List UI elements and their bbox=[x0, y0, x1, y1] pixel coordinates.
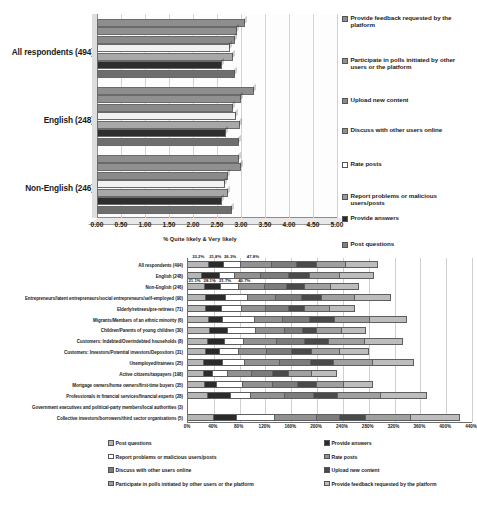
bottom-chart-bar-segment bbox=[310, 272, 341, 279]
bottom-chart-bar-segment bbox=[188, 381, 205, 388]
bottom-chart-bar-segment bbox=[206, 294, 226, 301]
bottom-chart-bar-segment bbox=[255, 316, 283, 323]
bottom-chart-category-label: Mortgage owners/home owners/first-time b… bbox=[72, 383, 183, 388]
bottom-chart-bar-segment bbox=[231, 392, 252, 399]
top-chart-legend-item: Report problems or malicious users/posts bbox=[342, 192, 472, 207]
bottom-chart-bar-segment bbox=[243, 381, 274, 388]
bottom-chart-bar-segment bbox=[205, 381, 217, 388]
bottom-chart-stacked-bar bbox=[188, 414, 460, 419]
bottom-chart-x-tick-label: 200% bbox=[310, 424, 322, 429]
bottom-chart-gridline bbox=[446, 258, 447, 422]
top-chart-bar bbox=[97, 129, 226, 137]
legend-swatch bbox=[342, 162, 348, 168]
bottom-chart-category-label: Elderly/retirees/pre-retirees (71) bbox=[117, 307, 183, 312]
top-chart-gridline bbox=[313, 14, 314, 218]
top-chart-bar bbox=[97, 19, 245, 27]
bottom-chart-bar-segment bbox=[277, 338, 305, 345]
bottom-chart-bar-segment bbox=[272, 261, 298, 268]
bottom-chart-bar-segment bbox=[188, 316, 209, 323]
bottom-chart-stacked-bar bbox=[188, 283, 359, 288]
legend-swatch bbox=[342, 98, 348, 104]
bottom-chart-bar-segment bbox=[312, 348, 340, 355]
bottom-chart-category-label: All respondents (494) bbox=[138, 263, 183, 268]
bottom-chart-legend-label: Post questions bbox=[116, 440, 152, 446]
legend-swatch bbox=[324, 467, 330, 473]
bottom-chart-legend-item: Provide feedback requested by the platfo… bbox=[324, 481, 436, 487]
bottom-chart-bar-segment bbox=[188, 283, 205, 290]
top-chart-bar bbox=[97, 87, 254, 95]
bottom-chart-legend-item: Upload new content bbox=[324, 467, 379, 473]
top-chart-legend: Provide feedback requested by the platfo… bbox=[342, 8, 474, 220]
bottom-chart-bar-segment bbox=[273, 381, 297, 388]
legend-swatch bbox=[108, 467, 114, 473]
bottom-chart-stacked-bar bbox=[188, 305, 355, 310]
bottom-chart-bar-segment bbox=[204, 359, 222, 366]
top-chart-bar bbox=[97, 172, 228, 180]
bottom-chart-bar-segment bbox=[241, 261, 272, 268]
bottom-chart-bar-segment bbox=[292, 348, 312, 355]
bottom-chart-bar-segment bbox=[329, 338, 366, 345]
bottom-chart-bar-segment bbox=[317, 261, 346, 268]
bottom-chart-bar-segment bbox=[222, 305, 242, 312]
bottom-chart-legend-item: Post questions bbox=[108, 440, 152, 446]
bottom-chart-stacked-bar bbox=[188, 272, 374, 277]
bottom-chart-stacked-bar bbox=[188, 338, 403, 343]
bottom-chart-category-label: Active citizens/taxpayers (198) bbox=[119, 372, 183, 377]
top-chart-x-axis-title: % Quite likely & Very likely bbox=[0, 236, 400, 242]
bottom-chart-bar-segment bbox=[245, 359, 281, 366]
bottom-chart-data-label: 26.3% bbox=[224, 254, 236, 259]
bottom-chart-bar-segment bbox=[226, 294, 248, 301]
bottom-chart-bar-segment bbox=[335, 316, 371, 323]
bottom-chart: All respondents (494)English (248)Non-En… bbox=[0, 248, 474, 513]
bottom-chart-legend-label: Report problems or malicious users/posts bbox=[116, 454, 217, 460]
bottom-chart-bar-segment bbox=[411, 414, 460, 421]
bottom-chart-bar-segment bbox=[209, 316, 224, 323]
top-chart-legend-item: Provide answers bbox=[342, 214, 472, 222]
bottom-chart-bar-segment bbox=[223, 359, 245, 366]
bottom-chart-bar-segment bbox=[305, 338, 328, 345]
bottom-chart-bar-segment bbox=[340, 348, 369, 355]
top-chart-x-tick-label: 1.50 bbox=[163, 221, 176, 228]
bottom-chart-bar-segment bbox=[188, 305, 206, 312]
bottom-chart-bar-segment bbox=[265, 283, 287, 290]
top-chart-legend-label: Provide feedback requested by the platfo… bbox=[351, 14, 473, 29]
bottom-chart-bar-segment bbox=[285, 392, 314, 399]
bottom-chart-bar-segment bbox=[248, 294, 276, 301]
top-chart-bar bbox=[97, 95, 241, 103]
bottom-chart-bar-segment bbox=[206, 305, 222, 312]
bottom-chart-bar-segment bbox=[206, 348, 221, 355]
bottom-chart-stacked-bar bbox=[188, 327, 366, 332]
top-chart-legend-label: Report problems or malicious users/posts bbox=[351, 192, 473, 207]
bottom-chart-bar-segment bbox=[228, 370, 252, 377]
bottom-chart-bar-segment bbox=[297, 261, 317, 268]
top-chart-x-tick-label: 3.00 bbox=[235, 221, 248, 228]
top-chart-legend-label: Post questions bbox=[351, 240, 395, 247]
bottom-chart-bar-segment bbox=[302, 294, 323, 301]
bottom-chart-x-tick-label: 320% bbox=[388, 424, 400, 429]
bottom-chart-data-label: 21.8% bbox=[209, 254, 221, 259]
top-chart-gridline bbox=[289, 14, 290, 218]
bottom-chart-legend-label: Upload new content bbox=[332, 467, 380, 473]
bottom-chart-bar-segment bbox=[266, 305, 289, 312]
bottom-chart-bar-segment bbox=[244, 338, 277, 345]
bottom-chart-bar-segment bbox=[340, 272, 373, 279]
top-chart-bar bbox=[97, 189, 228, 197]
bottom-chart-legend-label: Provide answers bbox=[332, 440, 372, 446]
top-chart-bar bbox=[97, 138, 239, 146]
bottom-chart-data-label: 40.7% bbox=[238, 278, 250, 283]
bottom-chart-legend-item: Participate in polls initiated by other … bbox=[108, 481, 254, 487]
bottom-chart-legend: Post questionsReport problems or malicio… bbox=[108, 440, 474, 504]
bottom-chart-bar-segment bbox=[289, 370, 312, 377]
bottom-chart-bar-segment bbox=[223, 316, 255, 323]
bottom-chart-bar-segment bbox=[239, 283, 265, 290]
top-chart-category-label: English (248) bbox=[44, 115, 94, 125]
top-chart: All respondents (494)English (248)Non-En… bbox=[0, 0, 474, 248]
bottom-chart-category-label: Entrepreneurs/latent entrepreneurs/socia… bbox=[25, 296, 183, 301]
bottom-chart-category-label: Migrants/Members of an ethnic minority (… bbox=[93, 318, 183, 323]
bottom-chart-category-label: Non-English (246) bbox=[146, 285, 183, 290]
bottom-chart-bar-segment bbox=[303, 327, 318, 334]
bottom-chart-stacked-bar bbox=[188, 392, 427, 397]
bottom-chart-bar-segment bbox=[285, 327, 303, 334]
bottom-chart-stacked-bar bbox=[188, 261, 378, 266]
bottom-chart-bar-segment bbox=[217, 381, 243, 388]
